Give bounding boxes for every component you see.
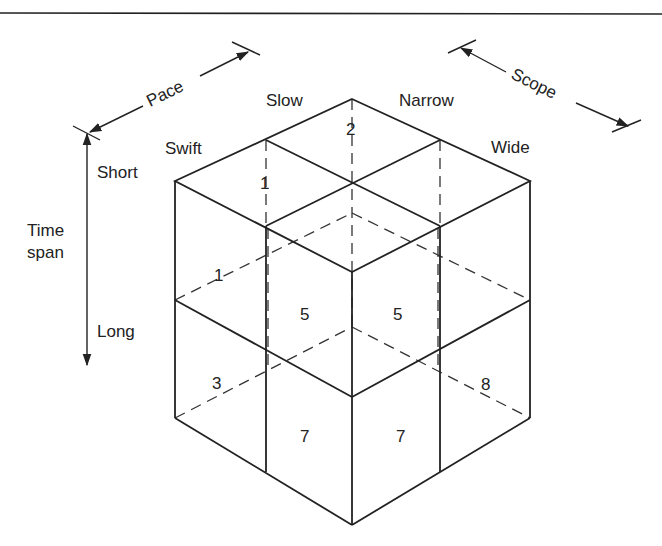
label-long: Long <box>97 322 135 341</box>
scope-label: Scope <box>508 65 560 103</box>
cell-number-front-right-upper: 5 <box>393 305 402 324</box>
cell-number-front-left-lower: 7 <box>300 427 309 446</box>
top-rule <box>0 13 662 14</box>
cube-diagram: Pace Scope Time span Slow Swift Narrow W… <box>0 0 662 546</box>
pace-label: Pace <box>143 77 186 111</box>
cube <box>175 99 530 525</box>
cell-number-right-lower: 8 <box>481 375 490 394</box>
cell-number-front-right-lower: 7 <box>396 427 405 446</box>
cell-number-left-upper: 1 <box>214 266 223 285</box>
label-swift: Swift <box>165 139 202 158</box>
cell-number-top-back: 2 <box>346 120 355 139</box>
cell-number-top-left: 1 <box>260 174 269 193</box>
label-wide: Wide <box>491 138 530 157</box>
cell-number-left-lower: 3 <box>212 374 221 393</box>
label-narrow: Narrow <box>399 91 455 110</box>
time-label-line2: span <box>27 243 64 262</box>
cell-number-front-left-upper: 5 <box>300 305 309 324</box>
time-label-line1: Time <box>27 221 64 240</box>
label-short: Short <box>97 163 138 182</box>
label-slow: Slow <box>266 91 304 110</box>
